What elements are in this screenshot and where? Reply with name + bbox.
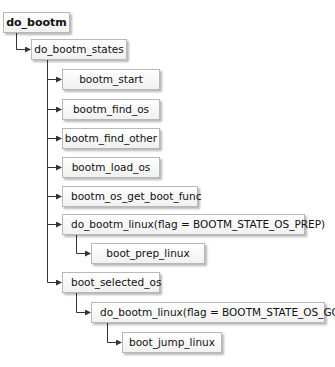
node-boot-prep-linux: boot_prep_linux bbox=[91, 243, 205, 264]
node-do-bootm-states: do_bootm_states bbox=[31, 39, 127, 60]
node-bootm-find-other: bootm_find_other bbox=[62, 128, 160, 149]
node-do-bootm-linux-prep: do_bootm_linux(flag = BOOTM_STATE_OS_PRE… bbox=[62, 214, 305, 235]
node-boot-jump-linux: boot_jump_linux bbox=[122, 332, 222, 353]
node-bootm-find-os: bootm_find_os bbox=[62, 99, 160, 120]
node-bootm-load-os: bootm_load_os bbox=[62, 157, 160, 178]
node-boot-selected-os: boot_selected_os bbox=[62, 272, 160, 293]
node-do-bootm-linux-go: do_bootm_linux(flag = BOOTM_STATE_OS_GO) bbox=[91, 302, 325, 323]
node-bootm-os-get-boot-func: bootm_os_get_boot_func bbox=[62, 186, 198, 207]
node-do-bootm: do_bootm bbox=[3, 12, 70, 33]
node-bootm-start: bootm_start bbox=[62, 69, 160, 90]
